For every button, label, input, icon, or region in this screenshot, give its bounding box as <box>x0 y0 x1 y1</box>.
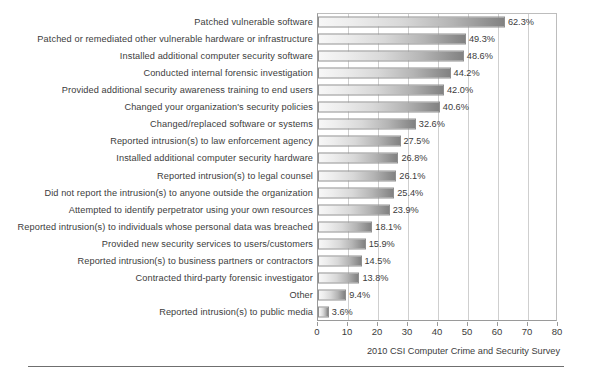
bar <box>318 67 451 78</box>
category-label: Reported intrusion(s) to individuals who… <box>18 222 313 232</box>
bar-row: Patched or remediated other vulnerable h… <box>0 30 590 47</box>
bar <box>318 187 394 198</box>
bar <box>318 204 390 215</box>
bar-rows: Patched vulnerable software62.3%Patched … <box>0 13 590 321</box>
x-tick-label: 80 <box>552 326 563 337</box>
bar-value-label: 9.4% <box>349 290 370 300</box>
bar-row: Reported intrusion(s) to law enforcement… <box>0 133 590 150</box>
bar-value-label: 62.3% <box>508 17 534 27</box>
bar-value-label: 13.8% <box>362 273 388 283</box>
category-label: Reported intrusion(s) to public media <box>159 307 313 317</box>
bar-value-label: 18.1% <box>375 222 401 232</box>
x-tick-label: 0 <box>314 326 319 337</box>
bar-row: Reported intrusion(s) to legal counsel26… <box>0 167 590 184</box>
source-caption: 2010 CSI Computer Crime and Security Sur… <box>367 346 560 356</box>
bar-value-label: 48.6% <box>467 51 493 61</box>
bar <box>318 273 359 284</box>
category-label: Reported intrusion(s) to business partne… <box>78 256 314 266</box>
bar-value-label: 26.1% <box>399 171 425 181</box>
bar <box>318 238 366 249</box>
x-tick-label: 30 <box>402 326 413 337</box>
bar <box>318 307 329 318</box>
category-label: Provided new security services to users/… <box>102 239 313 249</box>
bar <box>318 84 444 95</box>
bar-row: Installed additional computer security h… <box>0 150 590 167</box>
bar-row: Provided additional security awareness t… <box>0 81 590 98</box>
bar-value-label: 42.0% <box>447 85 473 95</box>
bar <box>318 119 416 130</box>
bar-value-label: 44.2% <box>454 68 480 78</box>
bar <box>318 136 401 147</box>
x-tick-label: 40 <box>432 326 443 337</box>
bar-row: Installed additional computer security s… <box>0 47 590 64</box>
bar <box>318 221 372 232</box>
bar-value-label: 49.3% <box>469 34 495 44</box>
category-label: Did not report the intrusion(s) to anyon… <box>44 188 313 198</box>
bar-row: Provided new security services to users/… <box>0 235 590 252</box>
bar <box>318 16 505 27</box>
category-label: Contracted third-party forensic investig… <box>135 273 313 283</box>
category-label: Patched or remediated other vulnerable h… <box>37 34 313 44</box>
category-label: Installed additional computer security h… <box>116 153 313 163</box>
bar-row: Conducted internal forensic investigatio… <box>0 64 590 81</box>
category-label: Patched vulnerable software <box>194 17 313 27</box>
category-label: Reported intrusion(s) to legal counsel <box>157 171 313 181</box>
bar-row: Reported intrusion(s) to public media3.6… <box>0 304 590 321</box>
x-tick-label: 70 <box>522 326 533 337</box>
bar <box>318 170 396 181</box>
category-label: Conducted internal forensic investigatio… <box>143 68 313 78</box>
bar-value-label: 26.8% <box>401 153 427 163</box>
bar-row: Changed/replaced software or systems32.6… <box>0 116 590 133</box>
bar <box>318 50 464 61</box>
category-label: Provided additional security awareness t… <box>62 85 313 95</box>
category-label: Reported intrusion(s) to law enforcement… <box>110 136 313 146</box>
bar-value-label: 32.6% <box>419 119 445 129</box>
bar-value-label: 25.4% <box>397 188 423 198</box>
bar-row: Other9.4% <box>0 287 590 304</box>
bar-row: Reported intrusion(s) to business partne… <box>0 253 590 270</box>
x-tick-label: 20 <box>372 326 383 337</box>
category-label: Installed additional computer security s… <box>120 51 313 61</box>
bar <box>318 102 440 113</box>
chart-page: Patched vulnerable software62.3%Patched … <box>0 0 590 377</box>
bar <box>318 256 362 267</box>
bar-row: Changed your organization's security pol… <box>0 99 590 116</box>
x-tick-label: 60 <box>492 326 503 337</box>
category-label: Changed/replaced software or systems <box>150 119 313 129</box>
bar-value-label: 14.5% <box>365 256 391 266</box>
bar-value-label: 23.9% <box>393 205 419 215</box>
bar-chart: Patched vulnerable software62.3%Patched … <box>0 0 590 340</box>
bar <box>318 33 466 44</box>
bar <box>318 153 398 164</box>
x-tick-label: 50 <box>462 326 473 337</box>
category-label: Attempted to identify perpetrator using … <box>69 205 313 215</box>
bar-row: Attempted to identify perpetrator using … <box>0 201 590 218</box>
bar-value-label: 27.5% <box>404 136 430 146</box>
bar-row: Did not report the intrusion(s) to anyon… <box>0 184 590 201</box>
bar-value-label: 40.6% <box>443 102 469 112</box>
bar <box>318 290 346 301</box>
bottom-divider <box>28 366 564 367</box>
bar-row: Contracted third-party forensic investig… <box>0 270 590 287</box>
bar-row: Reported intrusion(s) to individuals who… <box>0 218 590 235</box>
bar-row: Patched vulnerable software62.3% <box>0 13 590 30</box>
category-label: Changed your organization's security pol… <box>124 102 313 112</box>
x-axis: 01020304050607080 <box>317 322 558 338</box>
bar-value-label: 3.6% <box>332 307 353 317</box>
x-tick-label: 10 <box>342 326 353 337</box>
category-label: Other <box>290 290 313 300</box>
bar-value-label: 15.9% <box>369 239 395 249</box>
